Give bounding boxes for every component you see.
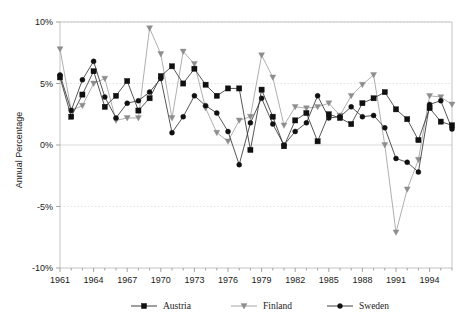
y-tick-label-10: 10% xyxy=(35,17,53,27)
data-point-marker xyxy=(226,129,231,134)
data-point-marker xyxy=(438,119,443,124)
data-point-marker xyxy=(113,93,118,98)
data-point-marker xyxy=(158,74,163,79)
data-point-marker xyxy=(349,121,354,126)
data-point-marker xyxy=(214,111,219,116)
data-point-marker xyxy=(360,101,365,106)
data-point-marker xyxy=(293,129,298,134)
data-point-marker xyxy=(203,103,208,108)
data-point-marker xyxy=(169,64,174,69)
data-point-marker xyxy=(416,137,421,142)
data-point-marker xyxy=(147,90,152,95)
x-tick-label-1988: 1988 xyxy=(352,275,372,285)
data-point-marker xyxy=(405,160,410,165)
data-point-marker xyxy=(125,78,130,83)
data-point-marker xyxy=(416,170,421,175)
data-point-marker xyxy=(225,86,230,91)
data-point-marker xyxy=(337,115,342,120)
data-point-marker xyxy=(270,114,275,119)
data-point-marker xyxy=(141,303,146,308)
data-point-marker xyxy=(57,75,62,80)
data-point-marker xyxy=(259,87,264,92)
data-point-marker xyxy=(315,139,320,144)
figure-container: 10%5%0%-5%-10% 1961196419671970197319761… xyxy=(0,0,465,328)
data-point-marker xyxy=(136,108,141,113)
data-point-marker xyxy=(237,162,242,167)
x-tick-label-1970: 1970 xyxy=(151,275,171,285)
y-axis-title: Annual Percentage xyxy=(14,112,24,189)
data-point-marker xyxy=(382,125,387,130)
x-tick-label-1982: 1982 xyxy=(285,275,305,285)
data-point-marker xyxy=(371,113,376,118)
data-point-marker xyxy=(315,93,320,98)
data-point-marker xyxy=(181,81,186,86)
data-point-marker xyxy=(371,96,376,101)
data-point-marker xyxy=(136,98,141,103)
data-point-marker xyxy=(405,117,410,122)
x-tick-label-1985: 1985 xyxy=(319,275,339,285)
data-point-marker xyxy=(360,114,365,119)
data-point-marker xyxy=(125,101,130,106)
data-point-marker xyxy=(91,69,96,74)
data-point-marker xyxy=(248,147,253,152)
y-tick-label--10: -10% xyxy=(32,263,53,273)
data-point-marker xyxy=(427,106,432,111)
data-point-marker xyxy=(80,77,85,82)
data-point-marker xyxy=(192,93,197,98)
data-point-marker xyxy=(382,90,387,95)
data-point-marker xyxy=(91,59,96,64)
data-point-marker xyxy=(338,304,343,309)
data-point-marker xyxy=(102,95,107,100)
data-point-marker xyxy=(304,120,309,125)
x-tick-label-1994: 1994 xyxy=(420,275,440,285)
data-point-marker xyxy=(349,104,354,109)
legend-label-austria: Austria xyxy=(163,301,192,311)
y-tick-label--5: -5% xyxy=(37,202,53,212)
data-point-marker xyxy=(237,86,242,91)
data-point-marker xyxy=(293,118,298,123)
data-point-marker xyxy=(449,123,454,128)
data-point-marker xyxy=(170,130,175,135)
gdp-growth-line-chart: 10%5%0%-5%-10% 1961196419671970197319761… xyxy=(0,0,465,328)
x-tick-label-1979: 1979 xyxy=(252,275,272,285)
data-point-marker xyxy=(326,112,331,117)
data-point-marker xyxy=(203,82,208,87)
data-point-marker xyxy=(114,115,119,120)
data-point-marker xyxy=(281,144,286,149)
x-tick-label-1991: 1991 xyxy=(386,275,406,285)
y-tick-label-5: 5% xyxy=(40,79,53,89)
legend-label-sweden: Sweden xyxy=(359,301,389,311)
data-point-marker xyxy=(394,156,399,161)
data-point-marker xyxy=(438,98,443,103)
data-point-marker xyxy=(147,96,152,101)
x-tick-label-1961: 1961 xyxy=(50,275,70,285)
x-tick-label-1967: 1967 xyxy=(117,275,137,285)
data-point-marker xyxy=(181,114,186,119)
data-point-marker xyxy=(304,110,309,115)
data-point-marker xyxy=(192,66,197,71)
x-tick-label-1973: 1973 xyxy=(184,275,204,285)
x-tick-label-1964: 1964 xyxy=(84,275,104,285)
data-point-marker xyxy=(80,92,85,97)
data-point-marker xyxy=(248,120,253,125)
data-point-marker xyxy=(214,93,219,98)
data-point-marker xyxy=(393,107,398,112)
x-tick-label-1976: 1976 xyxy=(218,275,238,285)
data-point-marker xyxy=(102,104,107,109)
y-tick-label-0: 0% xyxy=(40,140,53,150)
legend-label-finland: Finland xyxy=(263,301,292,311)
data-point-marker xyxy=(69,114,74,119)
